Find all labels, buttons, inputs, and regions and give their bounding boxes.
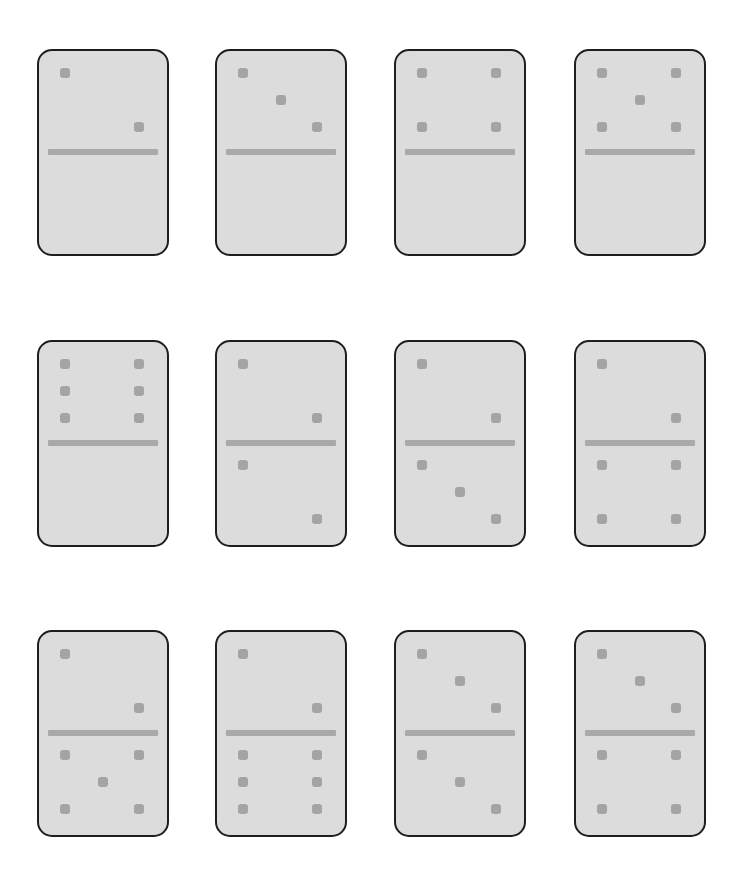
domino-board: 2|03|04|05|06|02|22|32|42|52|63|33|4 (0, 0, 744, 877)
pip-bottom (98, 777, 108, 787)
pip-bottom (597, 750, 607, 760)
domino-tile[interactable]: 5|0 (574, 49, 706, 256)
pip-top (238, 68, 248, 78)
domino-divider (226, 730, 336, 736)
pip-top (597, 649, 607, 659)
pip-bottom (455, 487, 465, 497)
pip-top (238, 649, 248, 659)
pip-bottom (455, 777, 465, 787)
pip-bottom (134, 750, 144, 760)
pip-top (60, 413, 70, 423)
domino-divider (48, 730, 158, 736)
pip-top (491, 413, 501, 423)
pip-top (238, 359, 248, 369)
pip-top (60, 386, 70, 396)
pip-bottom (417, 750, 427, 760)
domino-divider (585, 149, 695, 155)
pip-top (491, 68, 501, 78)
domino-divider (226, 440, 336, 446)
pip-top (134, 413, 144, 423)
domino-divider (48, 440, 158, 446)
pip-bottom (671, 460, 681, 470)
domino-divider (405, 149, 515, 155)
domino-tile[interactable]: 3|0 (215, 49, 347, 256)
pip-bottom (134, 804, 144, 814)
pip-bottom (238, 777, 248, 787)
pip-top (60, 359, 70, 369)
pip-top (671, 413, 681, 423)
pip-bottom (312, 750, 322, 760)
pip-bottom (60, 750, 70, 760)
pip-bottom (491, 804, 501, 814)
pip-bottom (60, 804, 70, 814)
domino-tile[interactable]: 6|0 (37, 340, 169, 547)
pip-bottom (312, 804, 322, 814)
pip-bottom (597, 460, 607, 470)
pip-top (491, 122, 501, 132)
pip-bottom (491, 514, 501, 524)
pip-top (635, 676, 645, 686)
pip-bottom (238, 804, 248, 814)
domino-tile[interactable]: 2|6 (215, 630, 347, 837)
pip-bottom (312, 777, 322, 787)
pip-top (134, 122, 144, 132)
pip-top (134, 386, 144, 396)
pip-top (597, 68, 607, 78)
domino-divider (585, 440, 695, 446)
pip-bottom (597, 514, 607, 524)
domino-tile[interactable]: 4|0 (394, 49, 526, 256)
domino-tile[interactable]: 2|4 (574, 340, 706, 547)
domino-divider (226, 149, 336, 155)
pip-top (635, 95, 645, 105)
pip-bottom (597, 804, 607, 814)
pip-top (455, 676, 465, 686)
domino-tile[interactable]: 2|3 (394, 340, 526, 547)
pip-top (276, 95, 286, 105)
pip-top (671, 68, 681, 78)
pip-top (60, 68, 70, 78)
domino-divider (405, 730, 515, 736)
pip-top (417, 122, 427, 132)
pip-bottom (238, 460, 248, 470)
pip-top (597, 122, 607, 132)
domino-tile[interactable]: 2|5 (37, 630, 169, 837)
pip-top (134, 359, 144, 369)
domino-tile[interactable]: 2|0 (37, 49, 169, 256)
pip-top (312, 703, 322, 713)
pip-top (671, 122, 681, 132)
domino-divider (405, 440, 515, 446)
pip-top (491, 703, 501, 713)
pip-top (60, 649, 70, 659)
domino-tile[interactable]: 3|4 (574, 630, 706, 837)
pip-bottom (671, 804, 681, 814)
pip-top (597, 359, 607, 369)
pip-bottom (671, 514, 681, 524)
pip-bottom (417, 460, 427, 470)
pip-top (417, 649, 427, 659)
pip-top (134, 703, 144, 713)
pip-bottom (238, 750, 248, 760)
pip-top (312, 413, 322, 423)
pip-bottom (312, 514, 322, 524)
domino-divider (585, 730, 695, 736)
domino-tile[interactable]: 2|2 (215, 340, 347, 547)
pip-top (417, 359, 427, 369)
pip-top (671, 703, 681, 713)
pip-bottom (671, 750, 681, 760)
domino-tile[interactable]: 3|3 (394, 630, 526, 837)
domino-divider (48, 149, 158, 155)
pip-top (312, 122, 322, 132)
pip-top (417, 68, 427, 78)
